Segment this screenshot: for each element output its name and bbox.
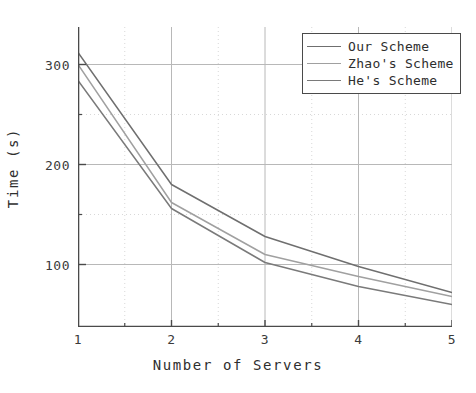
x-axis-tick-labels: 12345: [78, 332, 452, 352]
legend-item[interactable]: Our Scheme: [307, 38, 454, 55]
x-tick-label: 4: [354, 332, 362, 347]
legend-line-swatch: [307, 80, 341, 81]
legend-item-label: Zhao's Scheme: [348, 56, 454, 71]
legend-item-label: Our Scheme: [348, 39, 429, 54]
x-tick-label: 5: [448, 332, 456, 347]
legend-box: Our SchemeZhao's SchemeHe's Scheme: [302, 33, 461, 94]
x-tick-label: 1: [74, 332, 82, 347]
y-tick-label: 300: [45, 57, 70, 72]
x-tick-label: 3: [261, 332, 269, 347]
x-tick-label: 2: [167, 332, 175, 347]
legend-item-label: He's Scheme: [348, 73, 437, 88]
y-axis-tick-labels: 100200300: [30, 27, 70, 327]
legend-item[interactable]: He's Scheme: [307, 72, 454, 89]
legend-line-swatch: [307, 63, 341, 64]
legend-item[interactable]: Zhao's Scheme: [307, 55, 454, 72]
y-tick-label: 100: [45, 257, 70, 272]
y-tick-label: 200: [45, 157, 70, 172]
legend-line-swatch: [307, 46, 341, 47]
x-axis-title: Number of Servers: [0, 357, 476, 373]
chart-figure: 100200300 12345 Number of Servers Time (…: [0, 0, 476, 393]
y-axis-title: Time (s): [5, 108, 21, 228]
